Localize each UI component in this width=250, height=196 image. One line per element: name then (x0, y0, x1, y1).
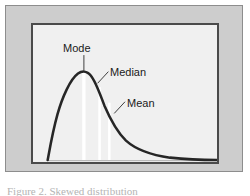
figure-panel: Mode Median Mean (5, 5, 243, 172)
mean-label: Mean (127, 98, 155, 109)
distribution-chart (33, 25, 217, 162)
figure-caption: Figure 2. Skewed distribution (7, 186, 147, 196)
mode-label: Mode (63, 43, 91, 54)
density-curve (48, 72, 217, 160)
median-label: Median (110, 67, 146, 78)
plot-frame: Mode Median Mean (31, 23, 219, 164)
median-leader-line (98, 72, 109, 84)
mean-leader-line (114, 102, 125, 114)
